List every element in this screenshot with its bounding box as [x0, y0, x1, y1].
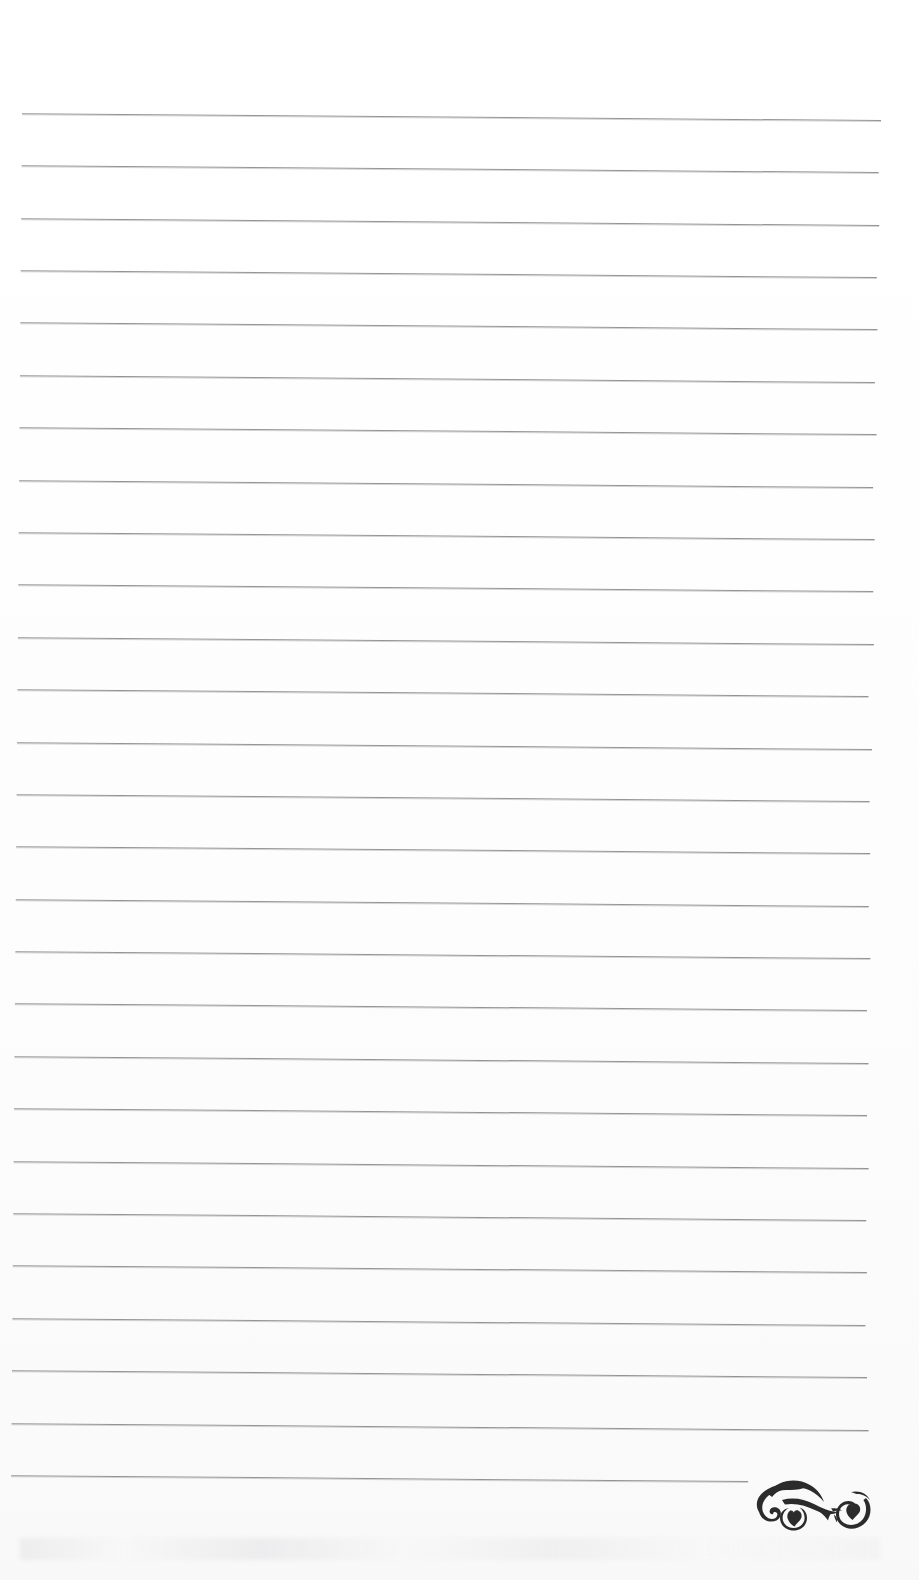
ruled-line — [15, 1003, 867, 1011]
notepad-page — [0, 0, 919, 1580]
ruled-line — [21, 218, 879, 226]
ruled-line — [15, 1056, 869, 1064]
ruled-line — [13, 1265, 867, 1273]
ruled-line — [17, 794, 870, 802]
ruled-line — [13, 1213, 866, 1221]
ruled-line — [22, 165, 879, 173]
ruled-line — [22, 113, 881, 121]
ruled-line — [19, 532, 875, 540]
ruled-line — [18, 584, 873, 592]
ruled-line — [11, 1475, 748, 1482]
ruled-line — [21, 270, 877, 278]
ruled-lines-layer — [0, 0, 919, 1580]
ruled-line — [15, 951, 870, 959]
ruled-line — [12, 1318, 865, 1326]
ruled-line — [20, 427, 877, 435]
ruled-line — [12, 1423, 869, 1431]
ruled-line — [18, 637, 874, 645]
ruled-line — [16, 899, 869, 907]
ruled-line — [17, 689, 868, 697]
ruled-line — [14, 1161, 869, 1169]
calligraphic-flourish-ornament — [748, 1468, 878, 1542]
ruled-line — [14, 1108, 867, 1116]
ruled-line — [16, 846, 870, 854]
ruled-line — [20, 322, 877, 330]
ruled-line — [17, 742, 872, 750]
ruled-line — [20, 375, 875, 383]
ruled-line — [19, 480, 873, 488]
ruled-line — [12, 1370, 867, 1378]
